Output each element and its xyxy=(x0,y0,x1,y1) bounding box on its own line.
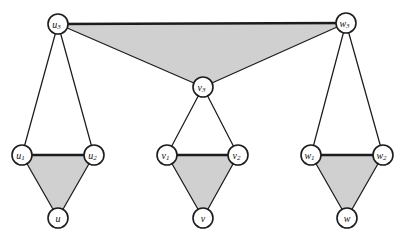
graph-node-u1[interactable]: u1 xyxy=(12,145,32,165)
graph-node-v3[interactable]: v3 xyxy=(193,77,213,97)
graph-node-u3[interactable]: u3 xyxy=(48,14,68,34)
node-label-v: v xyxy=(201,213,206,224)
graph-node-w1[interactable]: w1 xyxy=(301,145,321,165)
graph-figure: u3w3v3u1u2v1v2w1w2uvw xyxy=(0,0,406,245)
graph-node-w[interactable]: w xyxy=(337,208,357,228)
graph-canvas: u3w3v3u1u2v1v2w1w2uvw xyxy=(0,0,406,245)
graph-node-w3[interactable]: w3 xyxy=(336,13,356,33)
graph-edge-u3-w3[interactable] xyxy=(58,23,346,24)
graph-node-u2[interactable]: u2 xyxy=(84,145,104,165)
graph-node-v[interactable]: v xyxy=(193,208,213,228)
node-label-u: u xyxy=(56,213,61,224)
graph-node-v1[interactable]: v1 xyxy=(157,145,177,165)
node-label-w: w xyxy=(344,213,351,224)
graph-node-v2[interactable]: v2 xyxy=(228,145,248,165)
graph-node-u[interactable]: u xyxy=(48,208,68,228)
graph-node-w2[interactable]: w2 xyxy=(373,145,393,165)
